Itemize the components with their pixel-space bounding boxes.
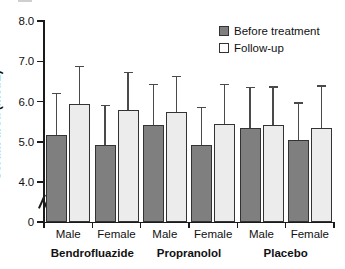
- error-bar-cap: [52, 93, 61, 94]
- y-tick-label: 5.0: [19, 136, 34, 148]
- y-tick-label: 6.0: [19, 96, 34, 108]
- error-bar: [176, 76, 177, 113]
- x-tick: [237, 222, 239, 228]
- bar: [46, 135, 67, 222]
- x-category-label: Male: [249, 228, 274, 240]
- x-tick: [140, 222, 142, 228]
- bar: [214, 124, 235, 222]
- bar: [143, 125, 164, 222]
- legend-swatch-icon: [219, 43, 229, 53]
- x-category-label: Female: [194, 228, 232, 240]
- legend-item: Before treatment: [219, 24, 320, 39]
- error-bar: [272, 86, 273, 125]
- x-tick: [188, 222, 190, 228]
- bar: [118, 110, 139, 222]
- x-tick: [92, 222, 94, 228]
- error-bar: [56, 93, 57, 135]
- y-tick: [37, 101, 44, 103]
- bar: [263, 125, 284, 222]
- x-group-label: Bendrofluazide: [51, 247, 134, 259]
- y-tick-label: 8.0: [19, 15, 34, 27]
- y-axis-title: Serum urea (mol/L): [0, 70, 3, 179]
- x-category-label: Male: [152, 228, 177, 240]
- legend-label: Before treatment: [234, 24, 320, 39]
- error-bar: [321, 85, 322, 127]
- bar: [166, 112, 187, 222]
- bar: [240, 128, 261, 222]
- x-category-label: Male: [56, 228, 81, 240]
- x-category-label: Female: [291, 228, 329, 240]
- error-bar: [201, 107, 202, 145]
- error-bar-cap: [101, 105, 110, 106]
- bar: [311, 128, 332, 222]
- error-bar-cap: [197, 107, 206, 108]
- y-tick: [37, 141, 44, 143]
- bar: [95, 145, 116, 222]
- error-bar-cap: [220, 84, 229, 85]
- error-bar: [127, 72, 128, 111]
- x-tick: [43, 222, 45, 228]
- legend-item: Follow-up: [219, 41, 320, 56]
- error-bar-cap: [149, 84, 158, 85]
- legend-swatch-icon: [219, 26, 229, 36]
- x-group-label: Propranolol: [157, 247, 222, 259]
- error-bar-cap: [269, 86, 278, 87]
- top-edge-artifact: [0, 0, 345, 3]
- error-bar-cap: [294, 102, 303, 103]
- y-tick-label: 4.0: [19, 176, 34, 188]
- y-tick-label: 7.0: [19, 55, 34, 67]
- y-tick: [37, 20, 44, 22]
- x-category-label: Female: [97, 228, 135, 240]
- error-bar-cap: [75, 66, 84, 67]
- legend-label: Follow-up: [234, 41, 284, 56]
- y-tick: [37, 61, 44, 63]
- bar: [288, 140, 309, 222]
- y-tick-label: 0: [28, 216, 34, 228]
- error-bar: [249, 87, 250, 128]
- error-bar-cap: [172, 76, 181, 77]
- error-bar: [224, 84, 225, 124]
- x-group-label: Placebo: [264, 247, 308, 259]
- error-bar-cap: [246, 87, 255, 88]
- y-tick: [37, 181, 44, 183]
- legend: Before treatmentFollow-up: [219, 24, 320, 57]
- error-bar: [79, 66, 80, 103]
- error-bar: [153, 84, 154, 125]
- bar: [69, 104, 90, 222]
- x-tick: [333, 222, 335, 228]
- bar: [191, 145, 212, 222]
- error-bar-cap: [317, 85, 326, 86]
- x-tick: [285, 222, 287, 228]
- error-bar: [104, 105, 105, 145]
- error-bar-cap: [124, 72, 133, 73]
- error-bar: [298, 102, 299, 139]
- bar-chart: Serum urea (mol/L) 8.07.06.05.04.00 Male…: [0, 0, 345, 269]
